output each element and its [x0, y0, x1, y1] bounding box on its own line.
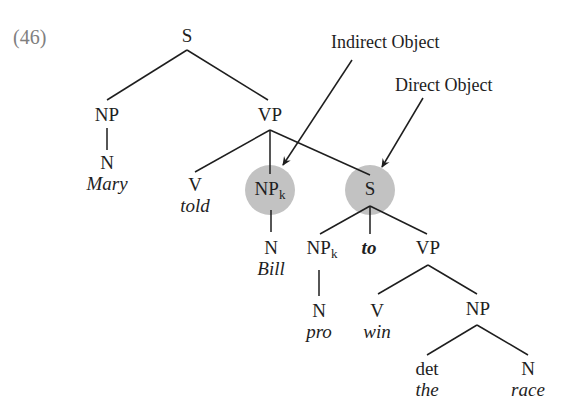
node-np-race: NP — [466, 298, 490, 319]
node-det: det — [415, 358, 438, 379]
word-bill: Bill — [257, 258, 284, 279]
node-np-pro: NPk — [307, 237, 338, 264]
np-label: NP — [255, 178, 279, 199]
word-race: race — [511, 379, 545, 400]
node-np-indirect-object: NPk — [255, 178, 286, 205]
word-told: told — [180, 195, 210, 216]
index-subscript: k — [331, 246, 338, 261]
index-subscript: k — [279, 187, 286, 202]
node-vp-embedded: VP — [416, 237, 440, 258]
tree-branches — [0, 0, 562, 414]
example-number: (46) — [13, 26, 46, 49]
word-mary: Mary — [86, 173, 127, 194]
node-n-subject: N — [100, 152, 114, 173]
node-n-race: N — [521, 358, 535, 379]
word-to: to — [362, 237, 377, 258]
indirect-object-label: Indirect Object — [331, 32, 439, 53]
word-the: the — [415, 379, 438, 400]
node-v-main: V — [188, 174, 202, 195]
direct-object-label: Direct Object — [395, 75, 492, 96]
node-vp-main: VP — [258, 104, 282, 125]
node-n-bill: N — [264, 237, 278, 258]
word-win: win — [363, 321, 390, 342]
node-s-direct-object: S — [365, 178, 376, 199]
node-np-subject: NP — [95, 104, 119, 125]
node-s-root: S — [182, 25, 193, 46]
np-label: NP — [307, 237, 331, 258]
word-pro: pro — [306, 321, 332, 342]
node-v-win: V — [370, 300, 384, 321]
node-n-pro: N — [312, 300, 326, 321]
